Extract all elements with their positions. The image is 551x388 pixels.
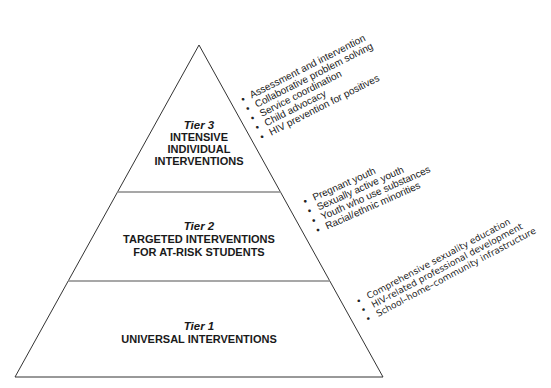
tier-3-title-line-3: INTERVENTIONS bbox=[154, 155, 243, 167]
bullet-glyph: • bbox=[314, 224, 322, 236]
tier-2-label: Tier 2 bbox=[184, 220, 215, 232]
tier-2-title-line-1: TARGETED INTERVENTIONS bbox=[123, 233, 275, 245]
tier-2-section: Tier 2 TARGETED INTERVENTIONS FOR AT-RIS… bbox=[123, 220, 275, 258]
tier-3-title-line-2: INDIVIDUAL bbox=[168, 143, 231, 155]
tier-3-label: Tier 3 bbox=[184, 119, 215, 131]
tier-1-title-line-1: UNIVERSAL INTERVENTIONS bbox=[121, 333, 276, 345]
bullet-glyph: • bbox=[364, 313, 373, 324]
pyramid-left-edge bbox=[15, 45, 199, 377]
tier-2-title-line-2: FOR AT-RISK STUDENTS bbox=[133, 246, 264, 258]
bullet-label: HIV-related professional development bbox=[370, 221, 525, 310]
tier-3-section: Tier 3 INTENSIVE INDIVIDUAL INTERVENTION… bbox=[154, 119, 243, 167]
tier-1-bullet-3: • School–home–community infrastructure bbox=[364, 225, 538, 324]
tier-1-label: Tier 1 bbox=[184, 320, 214, 332]
tier-2-bullet-list: • Pregnant youth • Sexually active youth… bbox=[301, 144, 436, 235]
tier-3-title-line-1: INTENSIVE bbox=[170, 131, 228, 143]
bullet-glyph: • bbox=[258, 131, 267, 143]
tiered-intervention-pyramid: Tier 3 INTENSIVE INDIVIDUAL INTERVENTION… bbox=[0, 0, 551, 388]
tier-1-bullet-2: • HIV-related professional development bbox=[359, 221, 525, 315]
tier-1-bullet-list: • Comprehensive sexuality education • HI… bbox=[354, 208, 538, 325]
tier-1-section: Tier 1 UNIVERSAL INTERVENTIONS bbox=[121, 320, 276, 345]
tier-3-bullet-list: • Assessment and intervention • Collabor… bbox=[239, 31, 389, 142]
bullet-label: School–home–community infrastructure bbox=[374, 225, 538, 318]
tier-1-bullet-1: • Comprehensive sexuality education bbox=[354, 217, 512, 307]
